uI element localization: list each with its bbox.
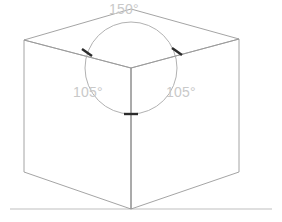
cube-angle-diagram: 150° 105° 105° bbox=[0, 0, 282, 222]
cube-drawing bbox=[0, 0, 282, 222]
angle-label-top: 150° bbox=[109, 2, 139, 16]
angle-label-left: 105° bbox=[73, 85, 103, 99]
cube-left-face bbox=[24, 40, 131, 209]
cube-right-face bbox=[131, 39, 239, 209]
angle-label-right: 105° bbox=[166, 85, 196, 99]
cube-top-face bbox=[24, 9, 239, 68]
